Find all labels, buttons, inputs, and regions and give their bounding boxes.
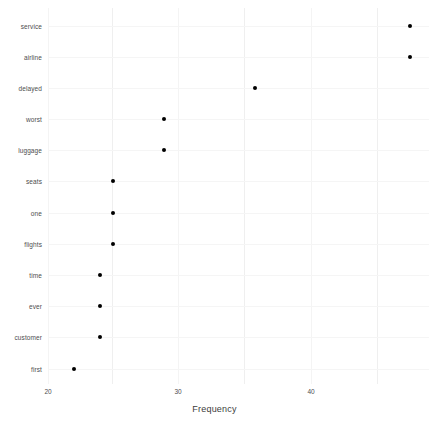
gridline-vertical <box>244 8 245 384</box>
gridline-horizontal <box>48 213 429 214</box>
gridline-horizontal <box>48 57 429 58</box>
y-axis-tick-label: seats <box>26 178 42 185</box>
data-point <box>72 367 76 371</box>
y-axis-tick-label: time <box>29 272 42 279</box>
gridline-vertical <box>178 8 179 384</box>
data-point <box>111 179 115 183</box>
data-point <box>111 211 115 215</box>
y-axis-tick-label: service <box>21 23 42 30</box>
gridline-horizontal <box>48 181 429 182</box>
gridline-horizontal <box>48 88 429 89</box>
y-axis-tick-label: first <box>31 366 42 373</box>
y-axis-tick-label: delayed <box>19 85 42 92</box>
y-axis-tick-label: flights <box>24 241 42 248</box>
data-point <box>253 86 257 90</box>
gridline-horizontal <box>48 26 429 27</box>
data-point <box>408 55 412 59</box>
y-axis-tick-label: ever <box>29 303 42 310</box>
x-axis-tick-label: 20 <box>44 388 51 395</box>
x-axis-ticks: 20 30 40 <box>48 384 429 404</box>
x-axis-tick-label: 30 <box>174 388 181 395</box>
gridline-horizontal <box>48 119 429 120</box>
x-axis-title: Frequency <box>0 404 429 414</box>
y-axis-tick-label: luggage <box>18 147 42 154</box>
plot-area <box>48 8 429 384</box>
y-axis-tick-label: worst <box>26 116 42 123</box>
gridline-horizontal <box>48 306 429 307</box>
data-point <box>408 24 412 28</box>
gridline-vertical <box>377 8 378 384</box>
y-axis-category-labels: service airline delayed worst luggage se… <box>0 8 42 384</box>
data-point <box>111 242 115 246</box>
data-point <box>98 304 102 308</box>
y-axis-tick-label: customer <box>14 334 42 341</box>
data-point <box>98 273 102 277</box>
gridline-horizontal <box>48 369 429 370</box>
gridline-horizontal <box>48 150 429 151</box>
data-point <box>162 117 166 121</box>
gridline-horizontal <box>48 244 429 245</box>
gridline-vertical <box>112 8 113 384</box>
dot-plot-chart: service airline delayed worst luggage se… <box>0 0 429 427</box>
y-axis-tick-label: one <box>31 210 42 217</box>
gridline-vertical <box>311 8 312 384</box>
gridline-vertical <box>48 8 49 384</box>
data-point <box>162 148 166 152</box>
gridline-horizontal <box>48 337 429 338</box>
data-point <box>98 335 102 339</box>
gridline-horizontal <box>48 275 429 276</box>
x-axis-tick-label: 40 <box>307 388 314 395</box>
y-axis-tick-label: airline <box>24 54 42 61</box>
